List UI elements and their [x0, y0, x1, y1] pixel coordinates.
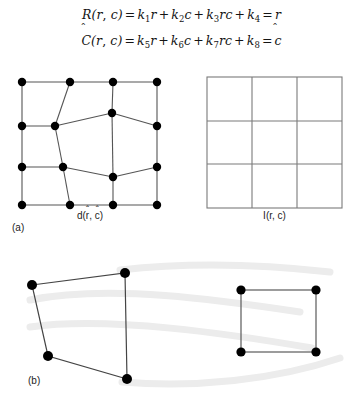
figure-tag-a: (a): [12, 222, 24, 233]
quad-node-bottom-right: [122, 374, 132, 384]
mesh-edge: [55, 126, 63, 167]
mesh-node: [153, 122, 161, 130]
mesh-edge: [113, 167, 157, 177]
figure-tag-b: (b): [28, 375, 40, 386]
mesh-node: [109, 78, 117, 86]
grid-border: [207, 77, 342, 208]
mesh-edge: [55, 113, 112, 126]
quad-node-top-right: [120, 268, 130, 278]
regular-grid-label: I(r, c): [207, 210, 342, 221]
square-node-bottom-right: [311, 347, 320, 356]
mesh-nodes: [18, 78, 161, 209]
quad-node-bottom-left: [43, 351, 53, 361]
mesh-node: [153, 78, 161, 86]
mesh-edge: [112, 113, 157, 126]
mesh-edge: [112, 113, 113, 177]
mesh-node: [153, 163, 161, 171]
mesh-node: [109, 173, 117, 181]
mapping-arrow-upper: [30, 293, 300, 312]
mesh-node: [18, 78, 26, 86]
mesh-edge: [63, 167, 70, 205]
c-hat-label: ĉ: [95, 210, 100, 221]
square-node-bottom-left: [236, 347, 245, 356]
square-node-top-left: [236, 285, 245, 294]
mesh-node: [153, 201, 161, 209]
mesh-node: [109, 201, 117, 209]
distorted-mesh: [18, 78, 161, 209]
mesh-edge: [63, 167, 113, 177]
diagram-canvas: [0, 0, 363, 399]
square-node-top-right: [311, 285, 320, 294]
r-hat-label: r̂: [86, 210, 89, 221]
mapping-arrow-lower: [30, 324, 312, 348]
regular-grid: [207, 77, 342, 208]
mesh-node: [18, 201, 26, 209]
figure-root: R̂(r, c)=k1r+k2c+k3rc+k4=r̂ Ĉ(r, c)=k5r…: [0, 0, 363, 399]
quad-node-top-left: [27, 280, 37, 290]
mapping-arrow-bottom: [122, 358, 340, 384]
mapping-arrows-group: [30, 265, 340, 384]
mesh-node: [66, 78, 74, 86]
distorted-mesh-label: d(r̂, ĉ): [0, 210, 180, 221]
mesh-node: [51, 122, 59, 130]
mesh-node: [59, 163, 67, 171]
mapping-arrow-top: [120, 265, 330, 272]
mesh-edges: [22, 82, 157, 205]
mesh-node: [18, 122, 26, 130]
mesh-edge: [112, 82, 113, 113]
mesh-edge: [55, 82, 70, 126]
mesh-node: [108, 109, 116, 117]
mesh-node: [66, 201, 74, 209]
mesh-node: [18, 163, 26, 171]
